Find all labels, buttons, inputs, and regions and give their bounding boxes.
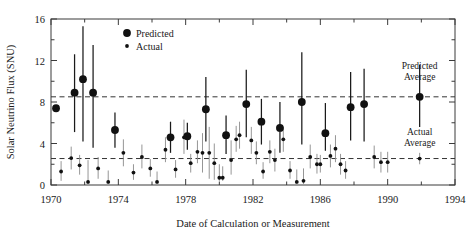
actual-data-point [121,151,125,155]
actual-data-point [217,176,221,180]
predicted-data-point [183,132,191,140]
actual-data-point [221,176,225,180]
y-tick-label-0: 0 [40,180,45,191]
annotation-actual-average-line-1: Average [404,138,435,148]
y-axis-title: Solar Neutrino Flux (SNU) [5,44,17,159]
solar-neutrino-flux-chart: 19701974197819821986199019940481216Date … [0,0,470,239]
actual-data-point [234,137,238,141]
actual-data-point [229,158,233,162]
actual-data-point [372,155,376,159]
predicted-data-point [167,133,175,141]
actual-data-point [295,180,299,184]
actual-data-point [339,162,343,166]
predicted-data-point [79,75,87,83]
actual-data-point [318,162,322,166]
actual-data-point [329,154,333,158]
actual-data-point [148,167,152,171]
predicted-data-point [202,105,210,113]
predicted-data-point [360,100,368,108]
y-tick-label-16: 16 [35,14,46,25]
actual-data-point [268,150,272,154]
x-axis-title: Date of Calculation or Measurement [176,218,329,229]
x-tick-label-1982: 1982 [243,194,264,205]
predicted-data-point [71,89,79,97]
actual-data-point [273,158,277,162]
actual-data-point [196,150,200,154]
predicted-data-point [347,103,355,111]
actual-data-point [238,133,242,137]
predicted-data-point [298,98,306,106]
x-tick-label-1970: 1970 [41,194,62,205]
x-tick-label-1978: 1978 [175,194,196,205]
x-tick-label-1986: 1986 [310,194,331,205]
predicted-data-point [416,93,424,101]
actual-data-point [132,171,136,175]
actual-data-point [254,151,258,155]
x-tick-label-1994: 1994 [445,194,467,205]
y-tick-label-4: 4 [40,139,46,150]
actual-data-point [96,167,100,171]
predicted-data-point [111,126,119,134]
actual-data-point [334,147,338,151]
y-tick-label-8: 8 [40,97,45,108]
predicted-data-point [52,104,60,112]
annotation-actual-average-line-0: Actual [407,127,433,137]
actual-data-point [308,155,312,159]
actual-data-point [59,170,63,174]
actual-data-point [379,160,383,164]
chart-svg: 19701974197819821986199019940481216Date … [0,0,470,239]
legend-marker-actual [125,44,129,48]
predicted-data-point [276,124,284,132]
plot-frame [51,19,455,185]
actual-data-point [106,180,110,184]
actual-data-point [249,138,253,142]
actual-data-point [212,161,216,165]
actual-data-point [86,180,90,184]
predicted-data-point [222,131,230,139]
actual-data-point [189,161,193,165]
x-tick-label-1974: 1974 [108,194,130,205]
predicted-data-point [89,89,97,97]
actual-data-point [69,156,73,160]
annotation-predicted-average-line-1: Average [404,72,435,82]
predicted-data-point [321,129,329,137]
actual-data-point [164,148,168,152]
predicted-data-point [258,118,266,126]
actual-data-point [315,162,319,166]
actual-data-point [174,168,178,172]
actual-data-point [201,151,205,155]
actual-data-point [288,169,292,173]
actual-data-point [155,180,159,184]
actual-data-point [261,170,265,174]
actual-data-point [344,169,348,173]
legend-label-predicted: Predicted [136,28,174,39]
predicted-data-point [242,100,250,108]
actual-data-point [302,179,306,183]
y-tick-label-12: 12 [35,56,46,67]
actual-data-point [386,160,390,164]
actual-data-point [207,151,211,155]
actual-data-point [418,157,422,161]
actual-data-point [78,163,82,167]
x-tick-label-1990: 1990 [377,194,398,205]
legend-label-actual: Actual [136,41,163,52]
legend-marker-predicted [123,29,131,37]
annotation-predicted-average-line-0: Predicted [402,61,438,71]
actual-data-point [281,137,285,141]
actual-data-point [140,155,144,159]
